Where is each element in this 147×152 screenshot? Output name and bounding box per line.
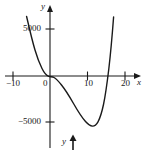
x-tick-label-10: 10 (84, 79, 93, 88)
x-axis-label: x (137, 78, 141, 87)
x-tick-label-20: 20 (121, 79, 130, 88)
y-tick-label--5000: −5000 (18, 117, 41, 126)
graph-figure: −10 0 10 20 5000 −5000 y x y (0, 0, 147, 152)
x-tick-label--10: −10 (6, 79, 20, 88)
y-axis-label: y (41, 2, 45, 11)
bottom-annotation-label: y (62, 137, 66, 146)
x-tick-label-0: 0 (43, 79, 48, 88)
y-tick-label-5000: 5000 (23, 24, 41, 33)
bottom-up-arrow-icon (70, 135, 77, 151)
